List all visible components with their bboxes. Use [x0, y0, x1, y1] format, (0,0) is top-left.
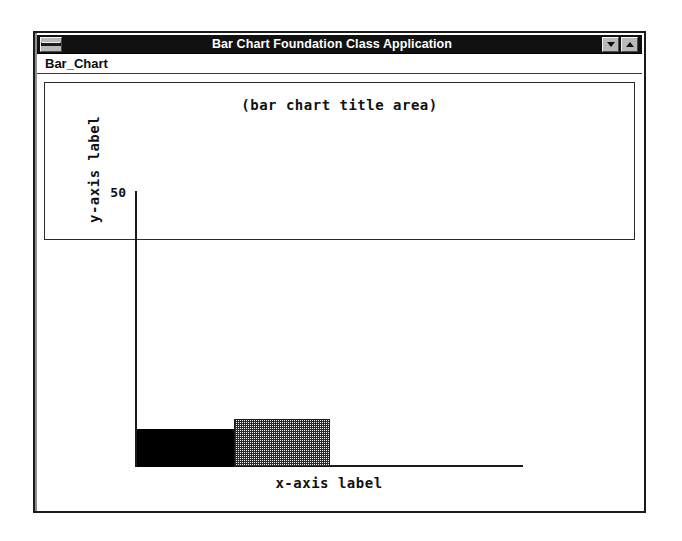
plot-area: 50: [135, 191, 521, 467]
bar-3: [330, 465, 427, 467]
y-axis-tick-label-50: 50: [110, 185, 126, 200]
window-buttons: [602, 37, 638, 52]
application-window: Bar Chart Foundation Class Application B…: [33, 31, 646, 513]
bar-chart-canvas: (bar chart title area) y-axis label 50 x…: [44, 82, 635, 240]
screenshot-root: Bar Chart Foundation Class Application B…: [0, 0, 682, 541]
bar-4: [427, 465, 524, 467]
x-axis-label: x-axis label: [135, 475, 523, 491]
window-title: Bar Chart Foundation Class Application: [62, 37, 602, 51]
system-menu-button[interactable]: [40, 37, 62, 52]
menu-item-bar-chart[interactable]: Bar_Chart: [37, 56, 114, 71]
minimize-bar-icon: [41, 42, 61, 46]
client-area: (bar chart title area) y-axis label 50 x…: [37, 75, 642, 511]
title-bar[interactable]: Bar Chart Foundation Class Application: [37, 35, 642, 54]
triangle-down-icon: [607, 42, 615, 47]
bar-series: [137, 415, 523, 467]
minimize-button[interactable]: [602, 37, 619, 52]
menu-bar: Bar_Chart: [37, 54, 642, 74]
bar-1: [137, 429, 234, 467]
maximize-button[interactable]: [621, 37, 638, 52]
chart-title: (bar chart title area): [45, 97, 634, 113]
y-axis-label: y-axis label: [86, 203, 102, 223]
triangle-up-icon: [626, 42, 634, 47]
bar-2: [234, 419, 331, 467]
